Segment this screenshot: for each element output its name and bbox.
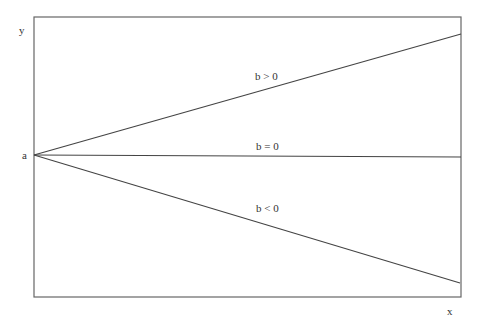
label-b-zero: b = 0 [256,140,279,152]
label-b-negative: b < 0 [256,202,279,214]
line-b-positive [34,34,461,155]
y-axis-label: y [19,24,25,36]
line-b-zero [34,155,461,157]
line-b-negative [34,155,460,283]
label-b-positive: b > 0 [255,70,278,82]
diagram-svg: y x a b > 0 b = 0 b < 0 [0,0,484,326]
linear-slope-diagram: y x a b > 0 b = 0 b < 0 [0,0,484,326]
x-axis-label: x [447,305,453,317]
origin-label: a [22,149,27,161]
